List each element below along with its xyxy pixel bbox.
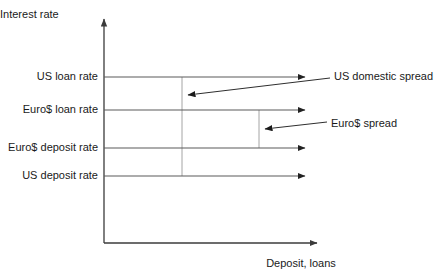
- rate-line-group: [104, 77, 305, 176]
- rate-label-us-loan-rate: US loan rate: [0, 71, 98, 82]
- annotation-us-domestic-spread: US domestic spread: [334, 71, 433, 82]
- leader-euro-dollar-spread: [265, 122, 327, 129]
- rate-label-us-deposit-rate: US deposit rate: [0, 170, 98, 181]
- annotation-euro-dollar-spread: Euro$ spread: [331, 118, 397, 129]
- y-axis-title: Interest rate: [0, 9, 98, 20]
- interest-rate-spread-diagram: Interest rate Deposit, loans US loan rat…: [0, 0, 436, 280]
- leader-us-domestic-spread: [188, 78, 330, 95]
- x-axis-title: Deposit, loans: [226, 258, 376, 269]
- spread-marker-group: [182, 77, 259, 176]
- rate-label-euro-dollar-deposit-rate: Euro$ deposit rate: [0, 142, 98, 153]
- diagram-canvas: [0, 0, 436, 280]
- axis-group: [104, 19, 317, 243]
- rate-label-euro-dollar-loan-rate: Euro$ loan rate: [0, 104, 98, 115]
